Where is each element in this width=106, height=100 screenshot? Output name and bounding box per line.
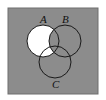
label-b: B xyxy=(62,13,69,25)
label-c: C xyxy=(52,78,60,90)
label-a: A xyxy=(39,13,47,25)
venn-diagram: A B C xyxy=(0,0,106,100)
